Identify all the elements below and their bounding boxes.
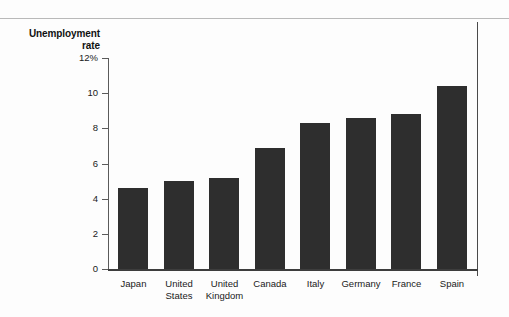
bar-chart-figure: Unemployment rate 12%1086420 JapanUnited…	[0, 0, 509, 317]
y-axis-tick: 0	[102, 269, 108, 270]
y-axis-tick-label: 0	[93, 262, 98, 275]
bar[interactable]	[437, 86, 467, 269]
bar-group: Italy	[293, 58, 339, 269]
plot-area: 12%1086420 JapanUnitedStatesUnitedKingdo…	[108, 58, 478, 270]
bar-series: JapanUnitedStatesUnitedKingdomCanadaItal…	[108, 58, 478, 269]
bar-group: UnitedStates	[157, 58, 203, 269]
bar-group: Germany	[339, 58, 385, 269]
y-axis-tick-label: 2	[93, 227, 98, 240]
bar[interactable]	[209, 178, 239, 269]
bar-group: France	[384, 58, 430, 269]
x-axis-category-label-line: Spain	[426, 278, 479, 290]
bar-group: Spain	[430, 58, 476, 269]
chart-title-line-2: rate	[6, 40, 100, 52]
bar[interactable]	[346, 118, 376, 269]
bar[interactable]	[391, 114, 421, 269]
x-axis-line	[108, 269, 478, 271]
bar-group: UnitedKingdom	[202, 58, 248, 269]
bar[interactable]	[300, 123, 330, 269]
bar-group: Japan	[111, 58, 157, 269]
y-axis-tick-label: 8	[93, 121, 98, 134]
y-axis-tick-label: 10	[87, 86, 98, 99]
y-axis-tick-label: 12%	[79, 51, 98, 64]
chart-title: Unemployment rate	[6, 28, 100, 51]
x-axis-category-label-line: Kingdom	[198, 290, 251, 302]
top-divider-rule	[0, 18, 509, 19]
bar[interactable]	[255, 148, 285, 269]
bar[interactable]	[164, 181, 194, 269]
y-axis-tick-label: 6	[93, 157, 98, 170]
x-axis-category-label: Spain	[426, 278, 479, 290]
bar-group: Canada	[248, 58, 294, 269]
y-axis-tick-label: 4	[93, 192, 98, 205]
chart-title-line-1: Unemployment	[6, 28, 100, 40]
bar[interactable]	[118, 188, 148, 269]
